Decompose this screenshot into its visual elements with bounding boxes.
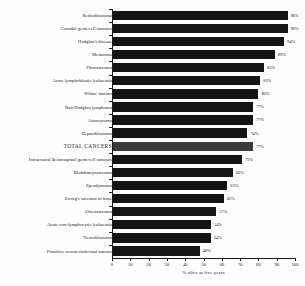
category-label: Acute lymphoblastic leukaemia bbox=[0, 78, 112, 83]
bar-value-label: 71% bbox=[245, 155, 253, 164]
bar-value-label: 54% bbox=[214, 233, 222, 242]
x-axis-tick-label: 50 bbox=[201, 262, 206, 267]
bar-row: Hepatoblastoma74% bbox=[0, 127, 305, 140]
bar bbox=[112, 89, 258, 98]
y-axis-tick bbox=[109, 75, 112, 76]
bar-row: Non-Hodgkin lymphoma77% bbox=[0, 101, 305, 114]
y-axis-tick bbox=[109, 48, 112, 49]
bar-row: Gonadal germ cell tumours96% bbox=[0, 22, 305, 35]
bar-track bbox=[112, 102, 295, 111]
bar-track bbox=[112, 37, 295, 46]
bar-track bbox=[112, 220, 295, 229]
y-axis-spine bbox=[112, 9, 113, 258]
bar-row: TOTAL CANCERS77% bbox=[0, 140, 305, 153]
x-axis-tick bbox=[258, 258, 259, 261]
bar-track bbox=[112, 50, 295, 59]
y-axis-tick bbox=[109, 114, 112, 115]
bar-row: Neuroblastoma54% bbox=[0, 232, 305, 245]
category-label: Primitive neuroectodermal tumour bbox=[0, 249, 112, 254]
bar-track bbox=[112, 233, 295, 242]
bar-track bbox=[112, 155, 295, 164]
bar bbox=[112, 207, 216, 216]
category-label: Retinoblastoma bbox=[0, 13, 112, 18]
y-axis-tick bbox=[109, 206, 112, 207]
bar-value-label: 77% bbox=[256, 142, 264, 151]
bar-row: Primitive neuroectodermal tumour48% bbox=[0, 245, 305, 258]
category-label: Acute non-lymphocytic leukaemia bbox=[0, 222, 112, 227]
bar-value-label: 83% bbox=[267, 63, 275, 72]
category-label: Astrocytoma bbox=[0, 118, 112, 123]
y-axis-tick bbox=[109, 140, 112, 141]
y-axis-tick bbox=[109, 88, 112, 89]
bar bbox=[112, 11, 288, 20]
x-axis-tick bbox=[185, 258, 186, 261]
bar bbox=[112, 155, 242, 164]
y-axis-tick bbox=[109, 219, 112, 220]
bar bbox=[112, 142, 253, 151]
bar-value-label: 80% bbox=[261, 89, 269, 98]
bar bbox=[112, 50, 275, 59]
x-axis-tick-label: 10 bbox=[128, 262, 133, 267]
bar-track bbox=[112, 24, 295, 33]
bar bbox=[112, 24, 288, 33]
bar bbox=[112, 37, 284, 46]
bar bbox=[112, 220, 211, 229]
x-axis-tick-label: 20 bbox=[146, 262, 151, 267]
x-axis-tick-label: 80 bbox=[256, 262, 261, 267]
bar-value-label: 77% bbox=[256, 115, 264, 124]
bar bbox=[112, 233, 211, 242]
x-axis-tick bbox=[295, 258, 296, 261]
bar-track bbox=[112, 207, 295, 216]
bar-row: Retinoblastoma96% bbox=[0, 9, 305, 22]
x-axis-tick bbox=[167, 258, 168, 261]
x-axis: 0102030405060708090100 bbox=[112, 258, 295, 259]
category-label: Non-Hodgkin lymphoma bbox=[0, 105, 112, 110]
y-axis-tick bbox=[109, 192, 112, 193]
x-axis-tick bbox=[240, 258, 241, 261]
bar-row: Rhabdomyosarcoma66% bbox=[0, 166, 305, 179]
bar-value-label: 96% bbox=[291, 11, 299, 20]
bar bbox=[112, 246, 200, 255]
bar-track bbox=[112, 194, 295, 203]
category-label: Wilms' tumour bbox=[0, 91, 112, 96]
x-axis-tick-label: 90 bbox=[274, 262, 279, 267]
y-axis-tick bbox=[109, 9, 112, 10]
bar-value-label: 61% bbox=[227, 194, 235, 203]
x-axis-tick bbox=[277, 258, 278, 261]
x-axis-tick-label: 70 bbox=[238, 262, 243, 267]
bar bbox=[112, 76, 260, 85]
bar-row: Astrocytoma77% bbox=[0, 114, 305, 127]
bar-track bbox=[112, 181, 295, 190]
y-axis-tick bbox=[109, 22, 112, 23]
bar-track bbox=[112, 115, 295, 124]
bar-row: Acute non-lymphocytic leukaemia54% bbox=[0, 219, 305, 232]
category-label: Hodgkin's disease bbox=[0, 39, 112, 44]
y-axis-tick bbox=[109, 179, 112, 180]
y-axis-tick bbox=[109, 127, 112, 128]
bar-row: Osteosarcoma57% bbox=[0, 205, 305, 218]
y-axis-tick bbox=[109, 232, 112, 233]
bar-value-label: 96% bbox=[291, 24, 299, 33]
category-label: Gonadal germ cell tumours bbox=[0, 26, 112, 31]
bar-row: Intracranial & intraspinal germ cell tum… bbox=[0, 153, 305, 166]
x-axis-tick bbox=[112, 258, 113, 261]
y-axis-tick bbox=[109, 153, 112, 154]
bar-row: Ependymoma63% bbox=[0, 179, 305, 192]
y-axis-tick bbox=[109, 245, 112, 246]
bar-track bbox=[112, 142, 295, 151]
bar-value-label: 57% bbox=[219, 207, 227, 216]
bar-value-label: 54% bbox=[214, 220, 222, 229]
y-axis-tick bbox=[109, 166, 112, 167]
category-label: Hepatoblastoma bbox=[0, 131, 112, 136]
chart-root: Retinoblastoma96%Gonadal germ cell tumou… bbox=[0, 0, 305, 286]
category-label: Neuroblastoma bbox=[0, 235, 112, 240]
category-label: Intracranial & intraspinal germ cell tum… bbox=[0, 157, 112, 162]
category-label: Melanoma bbox=[0, 52, 112, 57]
bar-value-label: 66% bbox=[236, 168, 244, 177]
category-label: TOTAL CANCERS bbox=[0, 144, 112, 149]
category-label: Fibrosarcoma bbox=[0, 65, 112, 70]
bar-value-label: 74% bbox=[250, 129, 258, 138]
x-axis-tick-label: 100 bbox=[292, 262, 299, 267]
x-axis-tick bbox=[149, 258, 150, 261]
bar-row: Melanoma89% bbox=[0, 48, 305, 61]
